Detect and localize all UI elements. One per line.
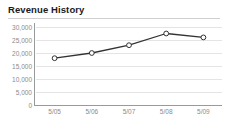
data-point-marker[interactable] [201,35,206,40]
data-point-marker[interactable] [164,31,169,36]
gridlines [36,27,222,105]
data-point-marker[interactable] [89,51,94,56]
axis-lines [34,23,222,105]
page-title: Revenue History [8,4,84,15]
data-point-marker[interactable] [127,43,132,48]
chart-plot-area: 05,00010,00015,00020,00025,00030,000 5/0… [0,20,226,126]
title-divider [8,18,220,19]
x-axis-labels: 5/055/065/075/085/09 [36,108,222,124]
x-axis-tick-label: 5/08 [160,108,173,116]
x-axis-tick-label: 5/06 [85,108,98,116]
x-axis-tick-label: 5/05 [48,108,61,116]
x-axis-tick-label: 5/09 [197,108,210,116]
revenue-history-chart-widget: Revenue History 05,00010,00015,00020,000… [0,0,226,126]
data-point-marker[interactable] [52,56,57,61]
x-axis-tick-label: 5/07 [123,108,136,116]
